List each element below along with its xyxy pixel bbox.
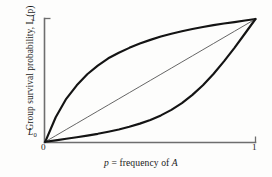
x-axis-label: p = frequency of A — [104, 158, 178, 168]
y-axis-tick-label-top: 1 — [31, 14, 36, 23]
y-axis-label: Group survival probability, L (p) — [25, 6, 35, 131]
x-axis-label-variable-a: A — [172, 157, 178, 168]
x-axis-tick-label-zero: 0 — [41, 143, 46, 152]
curves-group — [45, 19, 255, 142]
data-curve-1 — [45, 19, 255, 142]
x-axis-tick-label-one: 1 — [252, 143, 257, 152]
x-axis-label-middle: = frequency of — [109, 157, 172, 168]
origin-l0-subscript: 0 — [33, 131, 36, 138]
figure-container: Group survival probability, L (p) p = fr… — [0, 0, 272, 177]
origin-l0-label: L0 — [28, 128, 37, 137]
